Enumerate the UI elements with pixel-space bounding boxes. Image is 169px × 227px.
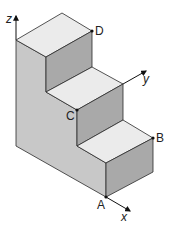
point-d-marker [90,29,93,32]
staircase-drawing [0,0,169,227]
point-b-marker [151,136,154,139]
staircase-diagram: z y x D C B A [0,0,169,227]
point-d-label: D [95,25,104,37]
point-c-marker [75,108,78,111]
z-axis-label: z [6,13,12,25]
point-c-label: C [66,110,75,122]
point-b-label: B [156,132,164,144]
x-axis-label: x [121,211,127,223]
x-axis [106,197,130,211]
y-axis-label: y [143,73,149,85]
point-a-label: A [97,199,105,211]
